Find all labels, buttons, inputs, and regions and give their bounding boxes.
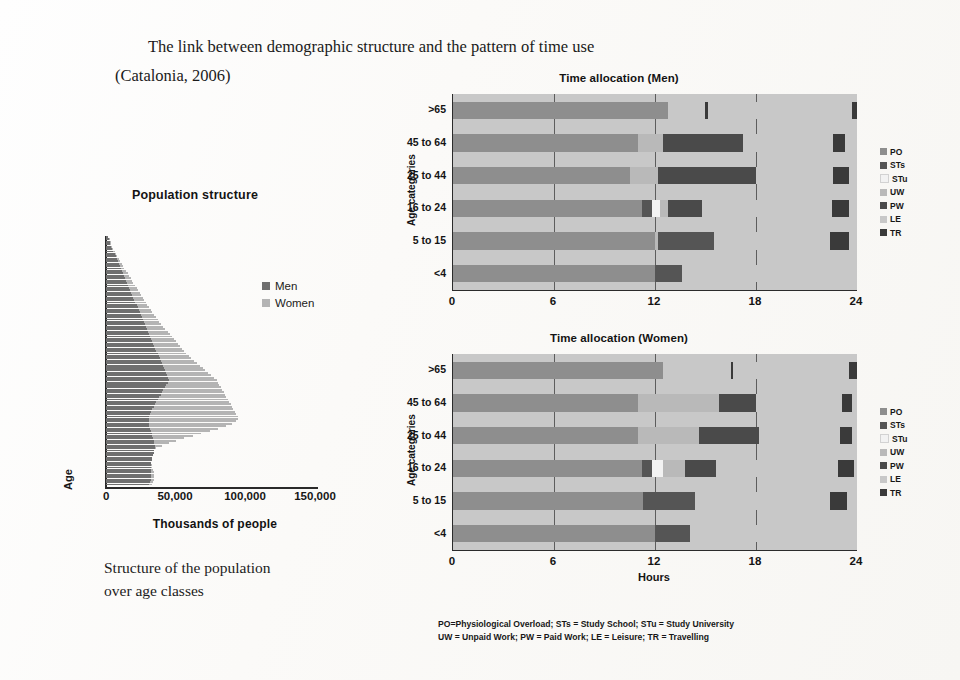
pyramid-legend-item: Men — [262, 280, 314, 292]
footnote-line-2: UW = Unpaid Work; PW = Paid Work; LE = L… — [438, 631, 858, 644]
bar-segment-tr — [838, 460, 853, 478]
legend-swatch-icon — [880, 449, 887, 456]
bar-segment-uw — [638, 427, 699, 445]
grid-line — [655, 94, 656, 290]
legend-swatch-icon — [262, 282, 270, 290]
pyramid-legend-label: Women — [275, 297, 314, 309]
legend-label: STs — [890, 160, 905, 170]
legend-item: PW — [880, 199, 907, 213]
pyramid-x-tick-label: 50,000 — [149, 490, 201, 502]
bar-segment-po — [453, 167, 630, 185]
bar-segment-le — [854, 460, 857, 478]
bar-segment-po — [453, 362, 663, 380]
bar-segment-uw — [660, 200, 668, 218]
bar-segment-sts — [655, 265, 682, 283]
y-category-label: 45 to 64 — [346, 396, 446, 408]
bar-segment-le — [845, 134, 857, 152]
y-category-label: 25 to 44 — [346, 169, 446, 181]
legend-swatch-icon — [880, 229, 887, 236]
legend-label: TR — [890, 488, 901, 498]
bar-segment-tr — [830, 492, 847, 510]
pyramid-x-axis-title: Thousands of people — [100, 517, 330, 531]
figure-caption: Structure of the population over age cla… — [104, 556, 394, 602]
bar-segment-po — [453, 394, 638, 412]
caption-line-1: Structure of the population — [104, 556, 394, 579]
legend-swatch-icon — [880, 476, 887, 483]
x-tick-label: 24 — [841, 555, 871, 567]
bar-segment-po — [453, 427, 638, 445]
legend-swatch-icon — [880, 202, 887, 209]
pyramid-legend-label: Men — [275, 280, 297, 292]
time-allocation-bar — [453, 167, 857, 185]
legend-label: STu — [892, 174, 907, 184]
time-allocation-bar — [453, 525, 857, 543]
legend-label: PW — [890, 201, 904, 211]
legend-footnote: PO=Physiological Overload; STs = Study S… — [438, 618, 858, 643]
bar-segment-le — [759, 427, 840, 445]
legend-swatch-icon — [880, 408, 887, 415]
bar-segment-po — [453, 492, 643, 510]
bar-segment-le — [695, 492, 830, 510]
plot-area — [452, 354, 857, 551]
legend-item: PO — [880, 145, 907, 159]
y-category-label: >65 — [346, 363, 446, 375]
bar-segment-po — [453, 525, 655, 543]
bar-segment-stu — [652, 460, 664, 478]
bar-segment-sts — [642, 200, 652, 218]
time-allocation-bar — [453, 427, 857, 445]
bar-segment-le — [852, 394, 857, 412]
pyramid-x-axis — [105, 487, 318, 489]
legend-swatch-icon — [880, 434, 889, 443]
legend-label: LE — [890, 474, 901, 484]
bar-segment-le — [702, 200, 832, 218]
legend-label: PW — [890, 461, 904, 471]
legend-swatch-icon — [880, 174, 889, 183]
legend-item: TR — [880, 226, 907, 240]
legend-swatch-icon — [880, 422, 887, 429]
legend-item: LE — [880, 472, 907, 486]
y-category-label: >65 — [346, 103, 446, 115]
bar-segment-le — [668, 102, 705, 120]
pyramid-legend: MenWomen — [262, 280, 314, 314]
bar-segment-uw — [638, 134, 663, 152]
bar-segment-stu — [652, 200, 660, 218]
legend-label: PO — [890, 147, 902, 157]
legend-label: LE — [890, 214, 901, 224]
legend-swatch-icon — [880, 462, 887, 469]
legend-item: PW — [880, 459, 907, 473]
y-category-label: <4 — [346, 527, 446, 539]
bar-segment-le — [716, 460, 839, 478]
figure-page: The link between demographic structure a… — [0, 0, 960, 680]
pyramid-age-row — [106, 484, 316, 486]
bar-segment-sts — [642, 460, 652, 478]
grid-line — [554, 354, 555, 550]
bar-segment-tr — [833, 167, 848, 185]
bar-segment-le — [743, 134, 834, 152]
plot-area — [452, 94, 857, 291]
pyramid-y-axis-label: Age — [62, 469, 74, 490]
y-category-label: 16 to 24 — [346, 201, 446, 213]
bar-segment-le — [682, 265, 857, 283]
y-category-label: <4 — [346, 267, 446, 279]
time-allocation-bar — [453, 265, 857, 283]
legend-item: STu — [880, 432, 907, 446]
legend-item: TR — [880, 486, 907, 500]
x-tick-label: 24 — [841, 295, 871, 307]
legend-swatch-icon — [880, 216, 887, 223]
bar-segment-tr — [830, 232, 849, 250]
legend-item: LE — [880, 212, 907, 226]
bar-segment-le — [714, 232, 830, 250]
bar-segment-uw — [663, 460, 685, 478]
pyramid-x-tick-label: 150,000 — [289, 490, 341, 502]
y-category-label: 25 to 44 — [346, 429, 446, 441]
x-axis-title: Hours — [452, 571, 856, 583]
legend-label: UW — [890, 187, 904, 197]
x-tick-label: 12 — [639, 295, 669, 307]
legend-swatch-icon — [880, 489, 887, 496]
y-category-label: 5 to 15 — [346, 234, 446, 246]
bar-segment-le — [852, 427, 857, 445]
bar-segment-po — [453, 232, 655, 250]
x-tick-label: 0 — [437, 555, 467, 567]
bar-segment-le — [756, 167, 833, 185]
time-allocation-women-title: Time allocation (Women) — [384, 332, 854, 344]
